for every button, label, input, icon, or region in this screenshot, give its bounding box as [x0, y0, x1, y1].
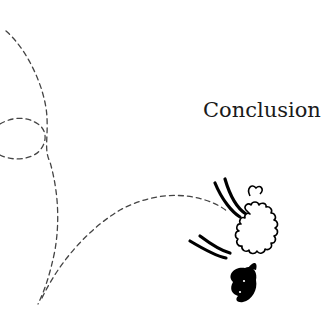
- sheep-head: [231, 267, 257, 302]
- dashed-trajectory: [0, 31, 228, 304]
- illustration-canvas: [0, 0, 330, 329]
- sheep-icon: [190, 179, 278, 302]
- section-title: Conclusion: [203, 98, 321, 122]
